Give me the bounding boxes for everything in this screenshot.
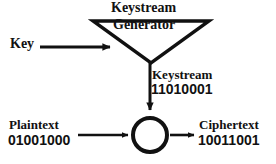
ciphertext-label: Ciphertext <box>199 118 259 132</box>
combiner-circle <box>133 118 167 152</box>
ciphertext-bits: 10011001 <box>198 133 260 148</box>
key-label: Key <box>10 37 34 52</box>
stream-cipher-diagram: Keystream Generator Key Keystream 110100… <box>0 0 276 164</box>
keystream-generator-title: Keystream <box>111 1 176 16</box>
plaintext-label: Plaintext <box>9 118 59 132</box>
keystream-label: Keystream <box>152 68 212 82</box>
generator-label: Generator <box>113 18 175 33</box>
plaintext-bits: 01001000 <box>8 133 70 148</box>
keystream-bits: 11010001 <box>151 82 213 97</box>
